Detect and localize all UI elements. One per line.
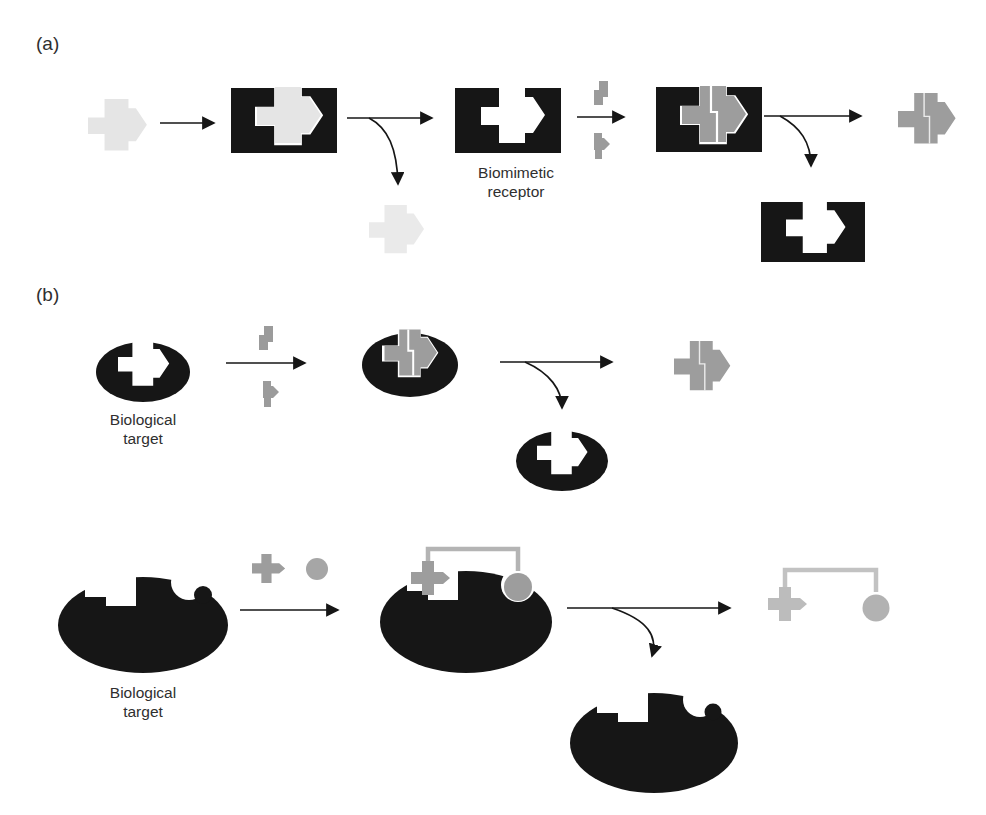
linker xyxy=(785,570,876,592)
assembled-product-icon xyxy=(898,93,956,143)
monomer-arrowhead-icon xyxy=(594,133,610,159)
substrate-cross-icon xyxy=(768,587,807,621)
binding-knob xyxy=(705,704,722,721)
monomer-zigzag-icon xyxy=(259,326,273,350)
template-molecule xyxy=(88,99,147,151)
product-target-complex xyxy=(362,328,458,397)
substrate-circle-icon xyxy=(306,558,328,580)
substrate-cross xyxy=(252,554,285,583)
released-template-molecule xyxy=(369,205,424,253)
release-arrow xyxy=(612,608,654,656)
coupled-product xyxy=(768,570,890,622)
monomer-arrowhead-icon xyxy=(263,381,279,407)
template-molecule-icon xyxy=(88,99,147,151)
product-molecule xyxy=(674,341,730,390)
panel-b-label: (b) xyxy=(36,284,59,306)
product-receptor-complex xyxy=(656,85,762,153)
panel-a-label: (a) xyxy=(36,33,59,55)
released-receptor xyxy=(761,201,865,262)
assembled-product-icon xyxy=(674,341,730,390)
biological-target-receptor xyxy=(96,341,190,402)
caption-line: target xyxy=(83,429,203,448)
caption-line: Biological xyxy=(83,683,203,702)
binding-knob xyxy=(194,586,212,604)
monomer-fragment-top xyxy=(259,326,273,350)
released-biological-target xyxy=(516,430,608,491)
biological-target-caption-bottom: Biological target xyxy=(83,683,203,721)
biomimetic-receptor-figure: (a) (b) Biomimetic receptor Biological t… xyxy=(0,0,986,815)
monomer-fragment-top xyxy=(594,81,608,105)
template-molecule-icon xyxy=(369,205,424,253)
substrate-circle-icon xyxy=(863,595,890,622)
knob-gap xyxy=(207,578,216,587)
released-enzyme xyxy=(570,683,738,793)
release-arrow xyxy=(780,116,811,166)
caption-line: Biomimetic xyxy=(441,163,591,182)
substrate-enzyme-complex xyxy=(380,549,552,673)
substrate-cross-icon xyxy=(252,554,285,583)
monomer-fragment-bottom xyxy=(263,381,279,407)
biological-target-caption-top: Biological target xyxy=(83,410,203,448)
monomer-fragment-bottom xyxy=(594,133,610,159)
caption-line: receptor xyxy=(441,182,591,201)
template-polymer-complex xyxy=(231,86,337,154)
substrate-circle-icon xyxy=(504,573,532,601)
monomer-zigzag-icon xyxy=(594,81,608,105)
release-arrow xyxy=(525,362,562,408)
product-molecule xyxy=(898,93,956,143)
biological-target-enzyme xyxy=(58,564,228,673)
biomimetic-receptor xyxy=(455,87,561,153)
caption-line: target xyxy=(83,702,203,721)
caption-line: Biological xyxy=(83,410,203,429)
knob-gap xyxy=(717,696,726,705)
release-arrow xyxy=(369,118,398,184)
biomimetic-receptor-caption: Biomimetic receptor xyxy=(441,163,591,201)
